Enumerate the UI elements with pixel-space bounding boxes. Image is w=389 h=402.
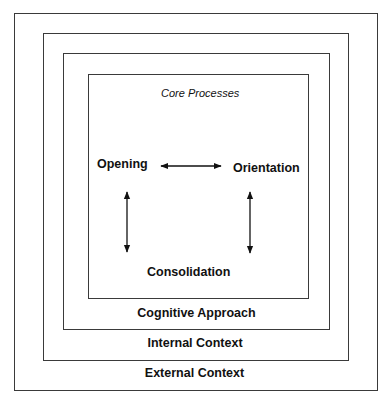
connection-arrows [0, 0, 389, 402]
